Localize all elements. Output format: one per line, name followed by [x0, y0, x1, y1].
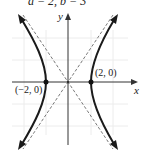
arrow-icon	[18, 14, 26, 24]
caption: a = 2, b = 3	[28, 0, 86, 9]
graph-canvas	[0, 0, 146, 155]
x-axis-label: x	[134, 84, 139, 96]
arrow-icon	[18, 140, 26, 150]
origin-point	[67, 81, 69, 83]
vertex-label-right: (2, 0)	[95, 67, 117, 78]
y-axis-label: y	[58, 10, 63, 22]
hyperbola-figure: a = 2, b = 3 y x (−2, 0) (2, 0)	[0, 0, 146, 155]
arrow-icon	[110, 140, 118, 150]
vertex-label-left: (−2, 0)	[15, 84, 42, 95]
vertex-point-right	[89, 80, 94, 85]
vertex-point-left	[44, 80, 49, 85]
arrow-icon	[110, 14, 118, 24]
y-axis-arrow-icon	[65, 13, 71, 20]
